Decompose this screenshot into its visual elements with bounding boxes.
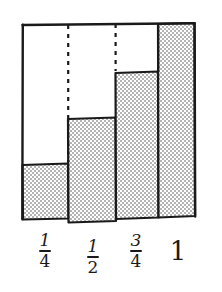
bar-2 xyxy=(68,118,116,223)
axis-tick-label-3: 3 4 xyxy=(113,232,159,271)
fraction-denominator: 2 xyxy=(85,258,102,276)
fraction-denominator: 4 xyxy=(128,252,145,270)
bar-1 xyxy=(23,164,69,220)
bar-4 xyxy=(158,23,195,218)
fraction-numerator: 1 xyxy=(85,238,102,256)
bar-4-shaded xyxy=(158,23,195,218)
frame-left-edge xyxy=(22,25,23,219)
fraction-one-quarter: 1 4 xyxy=(37,232,54,270)
bar-2-shaded xyxy=(68,118,116,223)
axis-tick-label-4: 1 xyxy=(155,238,201,264)
fraction-numerator: 1 xyxy=(37,232,54,250)
fraction-denominator: 4 xyxy=(37,252,54,270)
axis-tick-label-1: 1 4 xyxy=(22,232,68,271)
fraction-three-quarters: 3 4 xyxy=(128,232,145,270)
whole-number-one: 1 xyxy=(170,238,187,264)
axis-tick-label-2: 1 2 xyxy=(70,238,116,277)
bar-1-shaded xyxy=(23,164,69,220)
bar-3-shaded xyxy=(116,72,159,220)
frame-right-edge xyxy=(195,23,196,216)
fraction-one-half: 1 2 xyxy=(85,238,102,276)
fraction-bar-chart-figure: 1 4 1 2 3 4 1 xyxy=(0,0,222,292)
fraction-numerator: 3 xyxy=(128,232,145,250)
bar-3 xyxy=(116,72,159,220)
